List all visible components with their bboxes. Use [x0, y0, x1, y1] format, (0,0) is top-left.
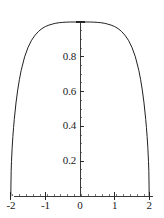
x-tick-label: 2 [138, 200, 160, 211]
y-tick-label: 0.8 [52, 51, 76, 62]
x-tick-label: 0 [69, 200, 91, 211]
x-tick-label: -1 [34, 200, 56, 211]
plot-canvas [0, 0, 164, 218]
x-tick-label: 1 [104, 200, 126, 211]
y-tick-label: 0.6 [52, 86, 76, 97]
y-tick-label: 0.4 [52, 120, 76, 131]
x-tick-label: -2 [0, 200, 22, 211]
plot-figure: 0.80.60.40.2 -2-1012 [0, 0, 164, 218]
y-tick-label: 0.2 [52, 155, 76, 166]
